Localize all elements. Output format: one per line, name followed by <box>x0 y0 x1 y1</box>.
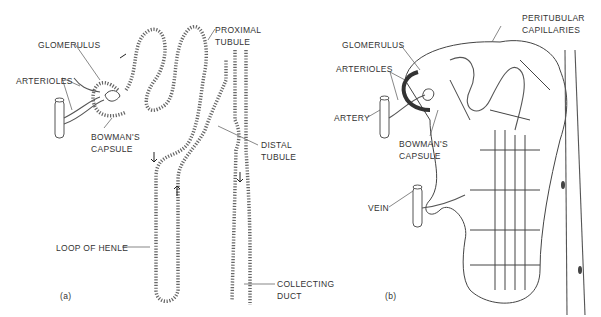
panel-a-id: (a) <box>60 291 71 301</box>
label-distal-tubule-line1: DISTAL <box>261 140 292 150</box>
label-distal-tubule-line2: TUBULE <box>261 152 296 162</box>
label-bowmans-capsule-a-line1: BOWMAN'S <box>91 132 140 142</box>
label-collecting-duct-line2: DUCT <box>277 291 302 301</box>
label-peritubular-line1: PERITUBULAR <box>522 13 585 23</box>
label-arterioles-b: ARTERIOLES <box>336 64 393 74</box>
label-arterioles-a: ARTERIOLES <box>16 76 73 86</box>
panel-b-drawing <box>368 26 585 315</box>
label-bowmans-capsule-a-line2: CAPSULE <box>91 144 133 154</box>
label-proximal-tubule-line2: TUBULE <box>215 37 250 47</box>
label-loop-of-henle: LOOP OF HENLE <box>56 243 128 253</box>
panel-b-id: (b) <box>385 291 396 301</box>
label-bowmans-capsule-b-line1: BOWMAN'S <box>399 139 448 149</box>
label-peritubular-line2: CAPILLARIES <box>522 25 580 35</box>
label-proximal-tubule-line1: PROXIMAL <box>215 25 261 35</box>
label-glomerulus-b: GLOMERULUS <box>342 40 405 50</box>
panel-a-drawing <box>55 27 275 305</box>
label-bowmans-capsule-b-line2: CAPSULE <box>399 151 441 161</box>
label-collecting-duct-line1: COLLECTING <box>277 279 334 289</box>
label-glomerulus-a: GLOMERULUS <box>38 40 101 50</box>
label-artery: ARTERY <box>334 113 370 123</box>
label-vein: VEIN <box>368 203 389 213</box>
